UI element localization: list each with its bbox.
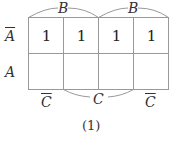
cell-r1-c0 bbox=[29, 54, 64, 90]
label-a: A bbox=[5, 65, 15, 79]
label-b: B bbox=[128, 1, 138, 15]
cell-r1-c3 bbox=[134, 54, 169, 90]
label-a-bar: A bbox=[5, 29, 15, 43]
figure-caption: (1) bbox=[82, 118, 100, 133]
cell-r0-c0: 1 bbox=[29, 18, 64, 54]
label-c-bar-right: C bbox=[145, 95, 156, 109]
cell-r0-c1: 1 bbox=[64, 18, 99, 54]
label-c-bar-left: C bbox=[41, 95, 52, 109]
label-b-bar: B bbox=[58, 1, 68, 15]
cell-r0-c2: 1 bbox=[99, 18, 134, 54]
cell-r0-c3: 1 bbox=[134, 18, 169, 54]
cell-r1-c1 bbox=[64, 54, 99, 90]
cell-r1-c2 bbox=[99, 54, 134, 90]
label-c: C bbox=[93, 92, 104, 106]
